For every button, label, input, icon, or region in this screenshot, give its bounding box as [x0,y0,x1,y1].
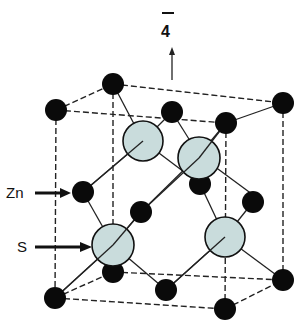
zn-atom [242,191,264,213]
zinc-blende-diagram: 4 [0,0,302,333]
cell-edge [113,84,283,103]
zn-atom [272,92,294,114]
zn-atom [215,112,237,134]
zn-atom [44,287,66,309]
cell-edge [225,123,226,309]
zn-atom [130,201,152,223]
s-pointer-arrow-icon [80,242,92,252]
zn-atom [272,269,294,291]
zn-label: Zn [6,184,24,201]
zn-atom [214,298,236,320]
zn-atom [72,181,94,203]
zn-pointer-arrow-icon [60,188,71,198]
axis-label: 4 [161,23,170,40]
zn-atom [45,99,67,121]
cell-edge [113,272,283,280]
axis-arrow-head [169,47,175,55]
zn-atom [161,101,183,123]
cell-edge [55,110,56,298]
zn-atom [102,73,124,95]
cell-edge [55,298,225,309]
s-label: S [17,238,27,255]
zn-atom [155,279,177,301]
bond [166,237,225,290]
